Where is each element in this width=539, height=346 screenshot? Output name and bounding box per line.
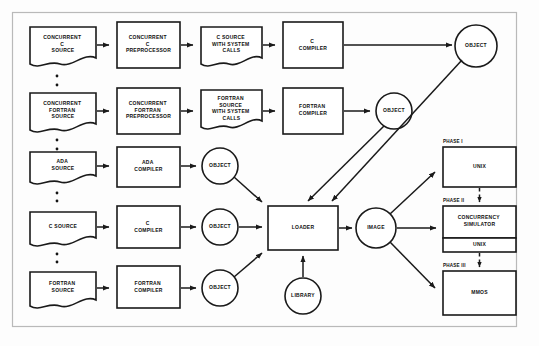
ellipsis-row3-row4 — [56, 192, 59, 203]
label-object-fortran: OBJECT — [209, 284, 231, 290]
ellipsis-row1-row2 — [56, 75, 59, 87]
label-concurrency-simulator: CONCURRENCY SIMULATOR — [458, 214, 502, 227]
flowchart-svg: CONCURRENT C SOURCE CONCURRENT C PREPROC… — [0, 0, 539, 346]
arrow-object-fortran-to-loader — [234, 253, 262, 277]
label-loader: LOADER — [292, 224, 315, 230]
diagram-canvas: CONCURRENT C SOURCE CONCURRENT C PREPROC… — [0, 0, 539, 346]
label-fortran-source: FORTRAN SOURCE — [49, 280, 77, 293]
label-phase-1: PHASE I — [443, 139, 463, 144]
label-library: LIBRARY — [291, 292, 315, 298]
ellipsis-row2-row3 — [56, 139, 59, 151]
label-fortran-compiler: FORTRAN COMPILER — [134, 280, 163, 293]
label-object-top: OBJECT — [465, 42, 487, 48]
label-object-c: OBJECT — [209, 223, 231, 229]
arrow-object-fortran-top-to-loader — [308, 126, 384, 201]
label-unix-phase2: UNIX — [473, 241, 486, 247]
label-fortran-compiler-top: FORTRAN COMPILER — [299, 103, 328, 116]
label-image: IMAGE — [367, 224, 385, 230]
arrow-object-ada-to-loader — [234, 177, 262, 202]
arrow-image-to-unix-phase1 — [390, 172, 435, 214]
label-c-source: C SOURCE — [49, 223, 78, 229]
label-phase-3: PHASE III — [443, 263, 466, 268]
ellipsis-row4-row5 — [56, 253, 59, 264]
label-mmos: MMOS — [471, 289, 488, 295]
label-object-fortran-top: OBJECT — [383, 107, 405, 113]
label-unix-phase1: UNIX — [473, 163, 486, 169]
arrow-image-to-mmos — [390, 242, 435, 288]
label-phase-2: PHASE II — [443, 198, 464, 203]
label-object-ada: OBJECT — [209, 162, 231, 168]
